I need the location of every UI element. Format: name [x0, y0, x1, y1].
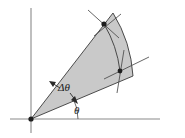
theta-label: θ	[74, 104, 80, 116]
shaded-sector-area	[31, 13, 133, 119]
diagram-canvas: Δθ θ	[0, 0, 185, 138]
upper-vertex-dot	[101, 21, 106, 26]
origin-dot	[28, 116, 33, 121]
delta-theta-upper-arrowhead	[49, 81, 56, 87]
delta-theta-label: Δθ	[57, 81, 70, 93]
polar-area-element-figure: Δθ θ	[0, 0, 185, 138]
lower-vertex-dot	[118, 69, 123, 74]
